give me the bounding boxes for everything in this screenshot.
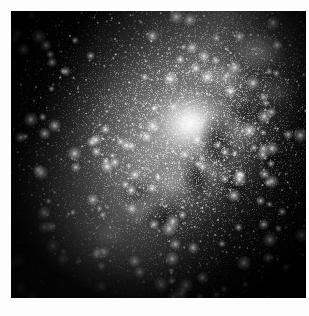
bright-star-points: [11, 11, 306, 298]
screenshot-canvas: [0, 0, 309, 316]
astrophotograph-image[interactable]: [11, 11, 306, 298]
